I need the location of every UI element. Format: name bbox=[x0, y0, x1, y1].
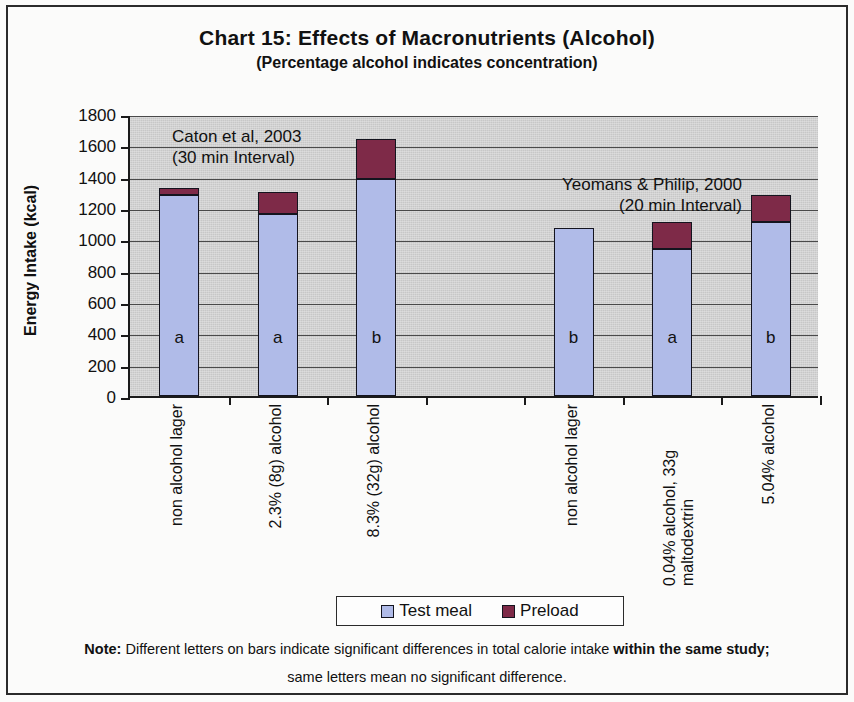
footnote: Note: Different letters on bars indicate… bbox=[40, 636, 814, 691]
annotation-caton-line2: (30 min Interval) bbox=[172, 147, 301, 168]
legend-item: Test meal bbox=[381, 601, 472, 621]
bar-segment-test-meal bbox=[356, 179, 396, 396]
y-axis-tick bbox=[121, 210, 130, 212]
y-axis-tick bbox=[121, 335, 130, 337]
y-axis-tick bbox=[121, 116, 130, 118]
x-axis-category-label: 8.3% (32g) alcohol bbox=[365, 404, 383, 537]
bar-column: b bbox=[751, 195, 791, 396]
gridline bbox=[130, 241, 818, 242]
x-axis-category-label: 0.04% alcohol, 33g maltodextrin bbox=[661, 404, 698, 586]
y-axis-tick-label: 0 bbox=[46, 388, 116, 408]
page-title: Chart 15: Effects of Macronutrients (Alc… bbox=[0, 26, 854, 50]
chart-page: Chart 15: Effects of Macronutrients (Alc… bbox=[0, 0, 854, 702]
y-axis-tick bbox=[121, 147, 130, 149]
bar-segment-preload bbox=[751, 195, 791, 222]
footnote-line1-b: within the same study; bbox=[613, 641, 769, 657]
legend-swatch bbox=[502, 605, 515, 618]
x-axis-category-label: 2.3% (8g) alcohol bbox=[267, 404, 285, 529]
gridline bbox=[130, 116, 818, 117]
y-axis-tick bbox=[121, 304, 130, 306]
bar-segment-test-meal bbox=[751, 222, 791, 396]
bar-segment-test-meal bbox=[554, 228, 594, 396]
bar-column: b bbox=[554, 228, 594, 396]
bar-column: b bbox=[356, 139, 396, 396]
bar-segment-preload bbox=[159, 188, 199, 196]
bar-segment-preload bbox=[258, 192, 298, 214]
y-axis-tick-label: 800 bbox=[46, 263, 116, 283]
bar-column: a bbox=[159, 188, 199, 396]
y-axis-tick-label: 200 bbox=[46, 357, 116, 377]
annotation-yeomans-line1: Yeomans & Philip, 2000 bbox=[562, 175, 742, 194]
y-axis-tick bbox=[121, 398, 130, 400]
y-axis-tick bbox=[121, 241, 130, 243]
y-axis-title: Energy Intake (kcal) bbox=[22, 140, 46, 380]
title-block: Chart 15: Effects of Macronutrients (Alc… bbox=[0, 26, 854, 73]
gridline bbox=[130, 273, 818, 274]
x-axis-category-label: 5.04% alcohol bbox=[760, 404, 778, 505]
legend-swatch bbox=[381, 605, 394, 618]
y-axis-tick-label: 1200 bbox=[46, 200, 116, 220]
plot-wrapper: 020040060080010001200140016001800 aabbab… bbox=[128, 116, 818, 398]
legend-label: Test meal bbox=[399, 601, 472, 621]
chart-legend: Test mealPreload bbox=[336, 596, 624, 626]
footnote-prefix: Note: bbox=[84, 641, 121, 657]
legend-label: Preload bbox=[520, 601, 579, 621]
bar-segment-preload bbox=[356, 139, 396, 179]
footnote-line2: same letters mean no significant differe… bbox=[40, 664, 814, 692]
annotation-caton-line1: Caton et al, 2003 bbox=[172, 127, 301, 146]
y-axis-tick-label: 1800 bbox=[46, 106, 116, 126]
plot-area: 020040060080010001200140016001800 aabbab… bbox=[128, 116, 818, 398]
gridline bbox=[130, 367, 818, 368]
bar-segment-preload bbox=[652, 222, 692, 249]
bar-significance-letter: b bbox=[751, 328, 791, 348]
gridline bbox=[130, 304, 818, 305]
bar-segment-test-meal bbox=[159, 195, 199, 396]
x-axis-tick bbox=[820, 396, 822, 405]
bar-column: a bbox=[258, 192, 298, 396]
bar-segment-test-meal bbox=[258, 214, 298, 396]
bar-significance-letter: a bbox=[258, 328, 298, 348]
gridline bbox=[130, 335, 818, 336]
y-axis-tick bbox=[121, 367, 130, 369]
y-axis-tick bbox=[121, 179, 130, 181]
bar-column: a bbox=[652, 222, 692, 396]
x-axis-category-label: non alcohol lager bbox=[168, 404, 186, 526]
bar-segment-test-meal bbox=[652, 249, 692, 396]
annotation-yeomans-line2: (20 min Interval) bbox=[562, 195, 742, 216]
annotation-yeomans-study: Yeomans & Philip, 2000 (20 min Interval) bbox=[562, 174, 742, 217]
y-axis-tick-label: 1600 bbox=[46, 137, 116, 157]
footnote-line1-a: Different letters on bars indicate signi… bbox=[121, 641, 613, 657]
y-axis-tick-label: 1400 bbox=[46, 169, 116, 189]
y-axis-tick-label: 1000 bbox=[46, 231, 116, 251]
y-axis-tick bbox=[121, 273, 130, 275]
bar-significance-letter: a bbox=[159, 328, 199, 348]
bar-significance-letter: a bbox=[652, 328, 692, 348]
annotation-caton-study: Caton et al, 2003 (30 min Interval) bbox=[172, 126, 301, 169]
y-axis-tick-label: 400 bbox=[46, 325, 116, 345]
chart-subtitle: (Percentage alcohol indicates concentrat… bbox=[0, 54, 854, 72]
x-axis-labels: non alcohol lager2.3% (8g) alcohol8.3% (… bbox=[128, 404, 818, 590]
y-axis-tick-label: 600 bbox=[46, 294, 116, 314]
x-axis-category-label: non alcohol lager bbox=[563, 404, 581, 526]
legend-item: Preload bbox=[502, 601, 579, 621]
bar-significance-letter: b bbox=[554, 328, 594, 348]
bar-significance-letter: b bbox=[356, 328, 396, 348]
